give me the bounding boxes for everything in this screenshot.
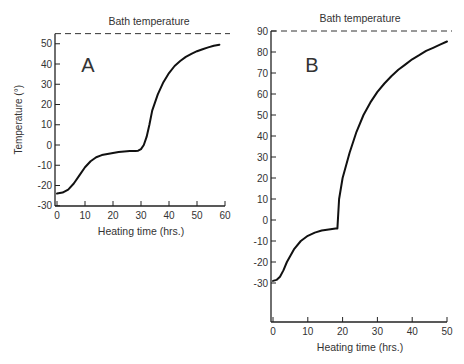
y-tick-label: -30	[254, 278, 269, 289]
y-tick-label: 90	[257, 26, 269, 37]
x-tick-label: 60	[219, 210, 231, 221]
x-tick-label: 40	[407, 326, 419, 337]
y-axis-label: Temperature (°)	[13, 85, 24, 155]
chart-title: Bath temperature	[108, 15, 189, 27]
chart-title: Bath temperature	[319, 12, 400, 24]
y-tick-label: 60	[257, 89, 269, 100]
y-tick-label: 50	[257, 110, 269, 121]
x-tick-label: 0	[270, 326, 276, 337]
y-tick-label: 50	[41, 38, 53, 49]
panel-label: B	[305, 54, 318, 76]
y-tick-label: 70	[257, 68, 269, 79]
x-axis-label: Heating time (hrs.)	[98, 225, 184, 237]
temperature-curve	[273, 42, 447, 281]
x-tick-label: 30	[135, 210, 147, 221]
x-tick-label: 40	[163, 210, 175, 221]
figure: Bath temperature-30-20-10010203040500102…	[0, 0, 464, 364]
y-tick-label: -30	[38, 200, 53, 211]
x-tick-label: 0	[54, 210, 60, 221]
y-tick-label: 0	[262, 215, 268, 226]
x-axis-label: Heating time (hrs.)	[317, 341, 403, 353]
panel-label: A	[81, 54, 95, 76]
x-tick-label: 50	[191, 210, 203, 221]
y-tick-label: 40	[41, 59, 53, 70]
y-tick-label: 0	[46, 140, 52, 151]
panel-a: Bath temperature-30-20-10010203040500102…	[13, 15, 231, 237]
y-tick-label: -20	[38, 180, 53, 191]
y-tick-label: 80	[257, 47, 269, 58]
y-tick-label: -10	[38, 160, 53, 171]
x-tick-label: 30	[372, 326, 384, 337]
y-tick-label: -20	[254, 257, 269, 268]
y-tick-label: 10	[41, 119, 53, 130]
y-tick-label: -10	[254, 236, 269, 247]
panel-b: Bath temperature-30-20-10010203040506070…	[254, 12, 453, 353]
y-tick-label: 40	[257, 131, 269, 142]
y-tick-label: 20	[41, 99, 53, 110]
x-tick-label: 10	[79, 210, 91, 221]
x-tick-label: 20	[107, 210, 119, 221]
y-tick-label: 30	[257, 152, 269, 163]
x-tick-label: 50	[441, 326, 453, 337]
y-tick-label: 10	[257, 194, 269, 205]
y-tick-label: 30	[41, 79, 53, 90]
y-tick-label: 20	[257, 173, 269, 184]
x-tick-label: 20	[337, 326, 349, 337]
x-tick-label: 10	[302, 326, 314, 337]
